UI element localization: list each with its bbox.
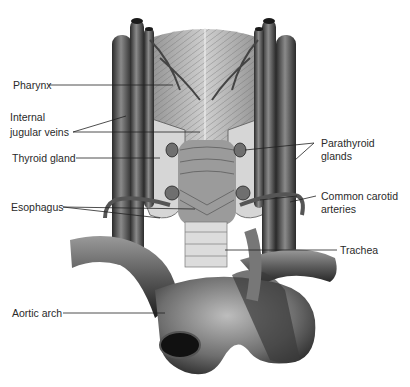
label-esophagus: Esophagus <box>11 201 64 213</box>
esophagus-structure <box>178 140 236 225</box>
label-parathyroid-glands-line2: glands <box>321 150 352 162</box>
label-internal-jugular-veins-line1: Internal <box>10 111 45 123</box>
label-parathyroid-glands-line1: Parathyroid <box>321 137 375 149</box>
label-thyroid-gland: Thyroid gland <box>12 152 76 164</box>
label-common-carotid-arteries-line2: arteries <box>321 203 356 215</box>
label-trachea: Trachea <box>340 244 378 256</box>
label-pharynx: Pharynx <box>13 79 52 91</box>
trachea-structure <box>185 222 227 267</box>
label-common-carotid-arteries-line1: Common carotid <box>321 190 398 202</box>
label-aortic-arch: Aortic arch <box>12 307 62 319</box>
label-internal-jugular-veins-line2: jugular veins <box>10 126 69 138</box>
